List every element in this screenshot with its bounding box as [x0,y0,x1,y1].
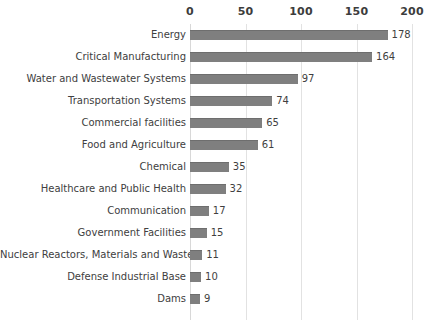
x-axis-tick-label: 100 [289,5,313,18]
bar-value-label: 10 [205,271,218,283]
bar-value-label: 65 [266,117,279,129]
bar-row: Food and Agriculture61 [0,134,430,156]
bar-container: 97 [190,68,430,90]
bar-container: 9 [190,288,430,310]
category-label: Energy [0,29,186,41]
bar-row: Communication17 [0,200,430,222]
bar[interactable] [190,228,207,238]
bar[interactable] [190,140,258,150]
bar-row: Chemical35 [0,156,430,178]
bar-container: 178 [190,24,430,46]
bar-row: Critical Manufacturing164 [0,46,430,68]
bar-row: Defense Industrial Base10 [0,266,430,288]
bar[interactable] [190,74,298,84]
bar-value-label: 164 [376,51,395,63]
bar-container: 164 [190,46,430,68]
bar[interactable] [190,118,262,128]
bar-row: Nuclear Reactors, Materials and Waste11 [0,244,430,266]
bar-container: 32 [190,178,430,200]
category-label: Dams [0,293,186,305]
category-label: Nuclear Reactors, Materials and Waste [0,249,186,261]
bar-container: 11 [190,244,430,266]
category-label: Healthcare and Public Health [0,183,186,195]
bar-row: Dams9 [0,288,430,310]
bar[interactable] [190,294,200,304]
bar[interactable] [190,250,202,260]
bar-row: Government Facilities15 [0,222,430,244]
bar-row: Energy178 [0,24,430,46]
bar[interactable] [190,162,229,172]
category-label: Communication [0,205,186,217]
bar-row: Water and Wastewater Systems97 [0,68,430,90]
category-label: Critical Manufacturing [0,51,186,63]
bar-value-label: 35 [233,161,246,173]
category-label: Defense Industrial Base [0,271,186,283]
bar-container: 15 [190,222,430,244]
bar-container: 35 [190,156,430,178]
category-label: Water and Wastewater Systems [0,73,186,85]
bar-row: Healthcare and Public Health32 [0,178,430,200]
bar-value-label: 32 [230,183,243,195]
bar-value-label: 178 [392,29,411,41]
category-label: Transportation Systems [0,95,186,107]
x-axis-tick-label: 0 [186,5,194,18]
bar-value-label: 15 [211,227,224,239]
bar-container: 61 [190,134,430,156]
x-axis-tick-label: 200 [400,5,424,18]
bar[interactable] [190,272,201,282]
x-axis-tick-label: 50 [238,5,254,18]
bar-row: Commercial facilities65 [0,112,430,134]
bar[interactable] [190,52,372,62]
bar[interactable] [190,96,272,106]
bar-container: 10 [190,266,430,288]
bar-container: 65 [190,112,430,134]
bar-row: Transportation Systems74 [0,90,430,112]
category-label: Government Facilities [0,227,186,239]
bar-value-label: 11 [206,249,219,261]
bar[interactable] [190,30,388,40]
bar[interactable] [190,184,226,194]
bar[interactable] [190,206,209,216]
bar-rows: Energy178Critical Manufacturing164Water … [0,24,430,320]
x-axis-tick-label: 150 [345,5,369,18]
bar-value-label: 9 [204,293,210,305]
bar-value-label: 97 [302,73,315,85]
x-axis-tick-labels: 050100150200 [0,0,430,24]
bar-value-label: 61 [262,139,275,151]
bar-value-label: 17 [213,205,226,217]
bar-container: 74 [190,90,430,112]
category-label: Chemical [0,161,186,173]
category-label: Food and Agriculture [0,139,186,151]
bar-value-label: 74 [276,95,289,107]
category-label: Commercial facilities [0,117,186,129]
bar-chart: 050100150200 Energy178Critical Manufactu… [0,0,430,331]
bar-container: 17 [190,200,430,222]
